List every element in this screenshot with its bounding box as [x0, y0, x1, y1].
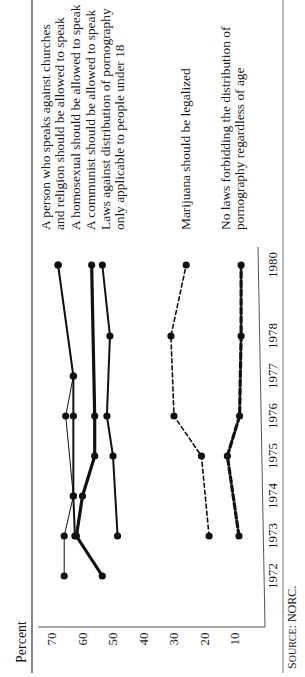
- data-point-marker: [167, 332, 174, 339]
- data-point-marker: [70, 492, 77, 499]
- data-point-marker: [238, 261, 245, 268]
- data-point-marker: [88, 261, 95, 268]
- x-tick-label: 1976: [265, 403, 280, 430]
- y-tick-label: 10: [227, 633, 242, 646]
- data-point-marker: [198, 452, 205, 459]
- legend-label: No laws forbidding the distribution of: [218, 26, 233, 230]
- data-point-marker: [114, 532, 121, 539]
- data-point-marker: [205, 532, 212, 539]
- data-point-marker: [224, 452, 231, 459]
- x-tick-label: 1975: [265, 443, 280, 469]
- series-lines: [55, 261, 245, 579]
- data-point-marker: [70, 412, 77, 419]
- data-point-marker: [91, 452, 98, 459]
- x-tick-label: 1978: [265, 323, 280, 349]
- legend-label: Laws against distribution of pornography: [98, 8, 113, 230]
- series-line-2: [76, 265, 102, 576]
- y-tick-label: 60: [75, 633, 90, 646]
- data-point-marker: [235, 532, 242, 539]
- data-point-marker: [62, 412, 69, 419]
- y-tick-label: 20: [197, 633, 212, 646]
- legend-label: A homosexual should be allowed to speak: [68, 4, 83, 230]
- x-axis-ticks: 19721973197419751976197719781980: [265, 252, 280, 589]
- data-point-marker: [236, 412, 243, 419]
- legend-label: only applicable to people under 18: [112, 44, 127, 230]
- series-line-4: [171, 265, 209, 536]
- data-point-marker: [99, 261, 106, 268]
- chart-figure: 70605040302010 1972197319741975197619771…: [0, 0, 305, 677]
- x-tick-label: 1973: [265, 523, 280, 549]
- x-axis-line: [258, 247, 265, 627]
- legend: A person who speaks against churchesand …: [38, 4, 247, 230]
- data-point-marker: [61, 532, 68, 539]
- legend-label: pornography regardless of age: [232, 67, 247, 230]
- x-tick-label: 1980: [265, 252, 280, 278]
- legend-label: A person who speaks against churches: [38, 24, 53, 230]
- data-point-marker: [99, 572, 106, 579]
- data-point-marker: [61, 572, 68, 579]
- source-note: SOURCE: NORC.: [285, 586, 299, 669]
- data-point-marker: [106, 332, 113, 339]
- data-point-marker: [91, 412, 98, 419]
- data-point-marker: [183, 261, 190, 268]
- series-line-0: [58, 265, 73, 576]
- y-axis-title: Percent: [14, 621, 29, 663]
- series-line-5: [227, 265, 241, 536]
- series-line-3: [102, 265, 117, 536]
- y-axis-ticks: 70605040302010: [44, 633, 242, 646]
- legend-label: A communist should be allowed to speak: [83, 10, 98, 230]
- x-tick-label: 1974: [265, 483, 280, 510]
- legend-label: and religion should be allowed to speak: [52, 17, 67, 230]
- line-chart: 70605040302010 1972197319741975197619771…: [0, 0, 305, 677]
- data-point-marker: [103, 412, 110, 419]
- data-point-marker: [79, 492, 86, 499]
- data-point-marker: [170, 412, 177, 419]
- y-tick-label: 30: [166, 633, 181, 646]
- y-tick-label: 50: [105, 633, 120, 646]
- data-point-marker: [109, 452, 116, 459]
- x-tick-label: 1977: [265, 363, 280, 390]
- data-point-marker: [55, 261, 62, 268]
- data-point-marker: [70, 372, 77, 379]
- data-point-marker: [73, 532, 80, 539]
- legend-label: Marijuana should be legalized: [178, 68, 193, 230]
- y-tick-label: 40: [136, 633, 151, 646]
- x-tick-label: 1972: [265, 563, 280, 589]
- y-tick-label: 70: [44, 633, 59, 646]
- data-point-marker: [238, 332, 245, 339]
